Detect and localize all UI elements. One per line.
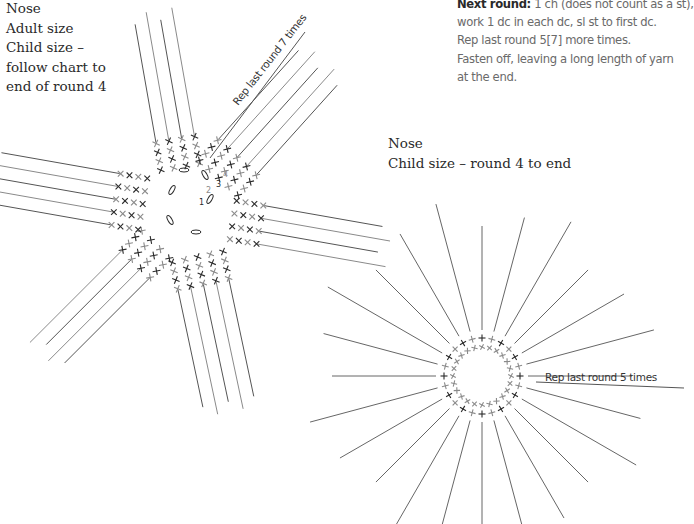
round-number-1: 1: [199, 198, 204, 207]
right-chart-annotation: Rep last round 5 times: [545, 371, 657, 383]
round-number-4: 4: [223, 170, 228, 179]
round-number-2: 2: [206, 186, 211, 195]
round-numbers: 1 2 3 4: [199, 170, 228, 207]
left-chart-annotation: Rep last round 7 times: [230, 12, 308, 108]
round-number-3: 3: [216, 180, 221, 189]
